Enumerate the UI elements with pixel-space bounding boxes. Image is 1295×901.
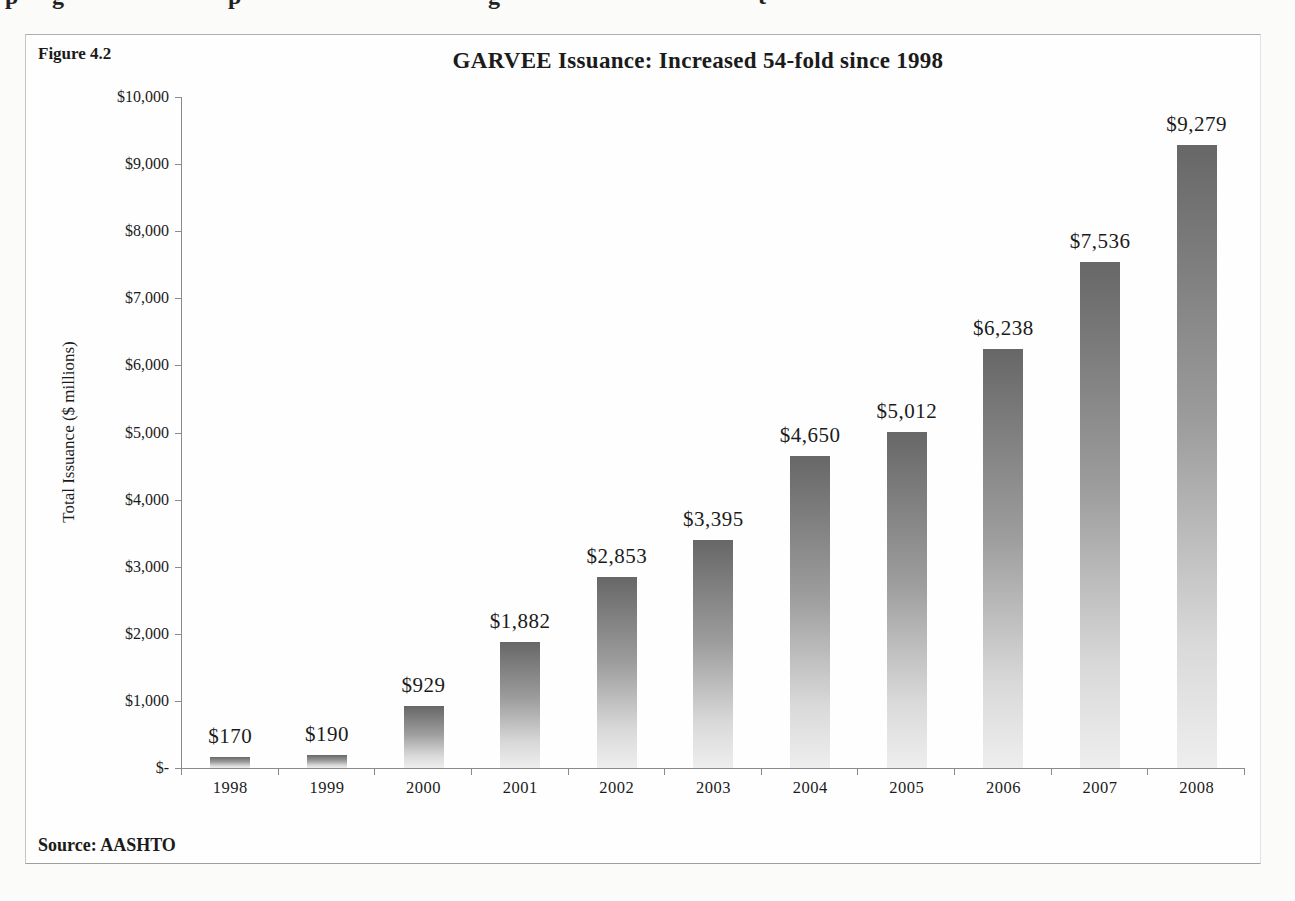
x-axis-tick (278, 769, 279, 775)
y-axis-tick (175, 365, 182, 366)
bar-slot: $1901999 (279, 97, 376, 768)
bar-value-label: $929 (402, 673, 446, 698)
bar-slot: $3,3952003 (665, 97, 762, 768)
bar-slot: $7,5362007 (1052, 97, 1149, 768)
y-axis-tick (175, 164, 182, 165)
y-axis-tick (175, 433, 182, 434)
y-axis-tick (175, 701, 182, 702)
figure-box: Figure 4.2 GARVEE Issuance: Increased 54… (25, 34, 1261, 864)
x-category-label: 2003 (696, 778, 731, 798)
y-axis-tick (175, 567, 182, 568)
y-axis-tick-label: $- (156, 759, 169, 777)
bar-slot: $5,0122005 (858, 97, 955, 768)
y-axis-tick-label: $1,000 (125, 692, 169, 710)
x-category-label: 2005 (889, 778, 924, 798)
y-axis-tick (175, 97, 182, 98)
y-axis-tick-label: $9,000 (125, 155, 169, 173)
bar (500, 642, 540, 768)
bar (307, 755, 347, 768)
x-category-label: 1998 (213, 778, 248, 798)
cropped-letter-fragment: p (228, 0, 241, 10)
y-axis-tick-label: $10,000 (117, 88, 169, 106)
y-axis-tick-label: $6,000 (125, 356, 169, 374)
bar-slot: $9292000 (375, 97, 472, 768)
scanned-page: pgpgt Figure 4.2 GARVEE Issuance: Increa… (0, 0, 1295, 901)
cropped-letter-fragment: t (758, 0, 766, 10)
y-axis-tick-label: $5,000 (125, 424, 169, 442)
x-axis-tick (857, 769, 858, 775)
bar (1177, 145, 1217, 768)
x-axis-tick (1147, 769, 1148, 775)
x-axis-tick (374, 769, 375, 775)
chart-title: GARVEE Issuance: Increased 54-fold since… (156, 48, 1240, 74)
x-category-label: 2007 (1083, 778, 1118, 798)
y-axis-tick (175, 298, 182, 299)
figure-number-label: Figure 4.2 (38, 44, 111, 64)
bar-slot: $9,2792008 (1148, 97, 1245, 768)
bar-slot: $4,6502004 (762, 97, 859, 768)
bar-value-label: $5,012 (876, 399, 937, 424)
x-axis-tick (954, 769, 955, 775)
bar (693, 540, 733, 768)
x-axis-tick (1244, 769, 1245, 775)
x-axis-tick (471, 769, 472, 775)
bar-value-label: $170 (208, 724, 252, 749)
source-note: Source: AASHTO (38, 835, 176, 856)
bar-slot: $6,2382006 (955, 97, 1052, 768)
bar (790, 456, 830, 768)
y-axis-labels: $10,000$9,000$8,000$7,000$6,000$5,000$4,… (26, 97, 169, 768)
bar (1080, 262, 1120, 768)
bar-value-label: $9,279 (1166, 112, 1227, 137)
y-axis-tick (175, 231, 182, 232)
y-axis-tick-label: $8,000 (125, 222, 169, 240)
bar-slot: $1,8822001 (472, 97, 569, 768)
bar (404, 706, 444, 768)
cropped-letter-fragment: g (488, 0, 500, 10)
bar-value-label: $1,882 (490, 609, 551, 634)
y-axis-tick-label: $4,000 (125, 491, 169, 509)
plot-area: $1701998$1901999$9292000$1,8822001$2,853… (181, 97, 1245, 769)
x-category-label: 2000 (406, 778, 441, 798)
y-axis-tick (175, 500, 182, 501)
bar-slot: $1701998 (182, 97, 279, 768)
y-axis-tick-label: $7,000 (125, 289, 169, 307)
y-axis-tick-label: $3,000 (125, 558, 169, 576)
x-axis-tick (568, 769, 569, 775)
bar-value-label: $2,853 (586, 544, 647, 569)
x-category-label: 2001 (503, 778, 538, 798)
y-axis-tick-label: $2,000 (125, 625, 169, 643)
x-axis-tick (1051, 769, 1052, 775)
bar-value-label: $6,238 (973, 316, 1034, 341)
bar-value-label: $4,650 (780, 423, 841, 448)
cropped-text-line-above-figure: pgpgt (0, 0, 1295, 10)
x-category-label: 1999 (309, 778, 344, 798)
x-axis-tick (664, 769, 665, 775)
bar-value-label: $3,395 (683, 507, 744, 532)
bar (210, 757, 250, 768)
bar (597, 577, 637, 768)
bar (983, 349, 1023, 768)
bar (887, 432, 927, 768)
bar-slot: $2,8532002 (569, 97, 666, 768)
x-category-label: 2006 (986, 778, 1021, 798)
cropped-letter-fragment: g (52, 0, 64, 10)
x-axis-tick (761, 769, 762, 775)
x-category-label: 2008 (1179, 778, 1214, 798)
cropped-letter-fragment: p (5, 0, 18, 10)
bar-value-label: $190 (305, 722, 349, 747)
y-axis-tick (175, 634, 182, 635)
x-category-label: 2004 (793, 778, 828, 798)
x-axis-tick (181, 769, 182, 775)
bar-value-label: $7,536 (1070, 229, 1131, 254)
x-category-label: 2002 (599, 778, 634, 798)
